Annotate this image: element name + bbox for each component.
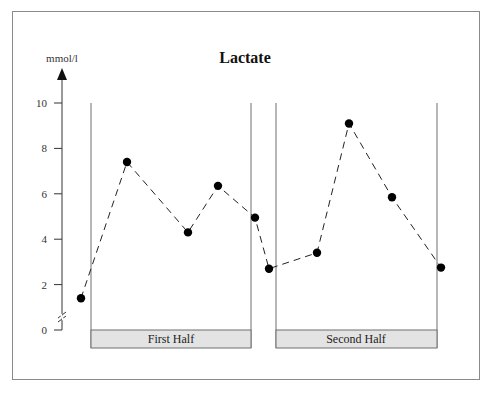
data-point <box>265 265 273 273</box>
lactate-series <box>77 119 445 302</box>
panel-first-half: First Half <box>91 103 251 348</box>
y-tick-label: 2 <box>42 279 48 291</box>
data-point <box>184 228 192 236</box>
panel-second-half: Second Half <box>276 103 437 348</box>
data-point <box>77 294 85 302</box>
chart-title: Lactate <box>219 49 271 66</box>
data-point <box>437 263 445 271</box>
y-tick-label: 10 <box>36 97 48 109</box>
y-tick-label: 6 <box>42 188 48 200</box>
data-point <box>313 249 321 257</box>
lactate-chart: Lactate mmol/l 0246810 First Half Second… <box>0 0 493 394</box>
y-ticks: 0246810 <box>36 97 62 336</box>
data-point <box>251 213 259 221</box>
panel-label-first-half: First Half <box>148 332 194 346</box>
y-tick-label: 0 <box>42 324 48 336</box>
data-point <box>388 193 396 201</box>
data-point <box>345 119 353 127</box>
y-axis-unit-label: mmol/l <box>46 52 78 64</box>
data-point <box>123 158 131 166</box>
series-line <box>81 123 441 298</box>
data-point <box>214 182 222 190</box>
panel-label-second-half: Second Half <box>326 332 386 346</box>
y-tick-label: 4 <box>42 233 48 245</box>
arrow-up-icon <box>57 68 67 80</box>
y-tick-label: 8 <box>42 142 48 154</box>
y-axis <box>57 68 67 330</box>
